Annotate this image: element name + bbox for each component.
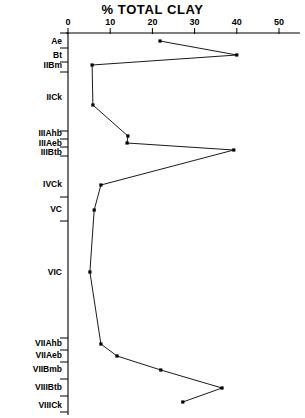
data-point-IIIAeb (126, 141, 129, 144)
data-point-markers (88, 39, 238, 403)
plot-area (0, 0, 305, 418)
data-point-VIIAeb (115, 354, 118, 357)
data-point-VC (93, 208, 96, 211)
data-point-VIIIBtb (220, 386, 223, 389)
data-point-VIIBmb (159, 368, 162, 371)
clay-profile-chart: % TOTAL CLAY 01020304050 AeBtIIBmIICkIII… (0, 0, 305, 418)
data-point-IIIAhb (126, 134, 129, 137)
data-point-Bt (235, 53, 238, 56)
data-line (90, 41, 237, 402)
data-point-IVCk (99, 183, 102, 186)
data-point-IICk (91, 103, 94, 106)
data-point-VIIAhb (99, 342, 102, 345)
data-point-VIIICk (181, 400, 184, 403)
data-point-IIBm (91, 63, 94, 66)
data-point-Ae (158, 39, 161, 42)
axis-group (60, 28, 300, 415)
data-point-IIIBtb (232, 148, 235, 151)
data-point-VIC (88, 270, 91, 273)
